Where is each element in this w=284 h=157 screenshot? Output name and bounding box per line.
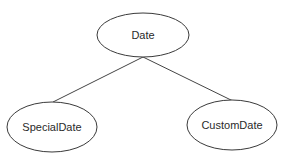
class-hierarchy-diagram: Date SpecialDate CustomDate [0, 0, 284, 157]
node-customdate: CustomDate [187, 100, 277, 150]
node-customdate-label: CustomDate [201, 119, 262, 131]
node-date: Date [97, 13, 189, 57]
edge-date-to-specialdate [53, 57, 143, 102]
edges [53, 57, 233, 102]
edge-date-to-customdate [143, 57, 233, 101]
node-specialdate: SpecialDate [7, 102, 97, 152]
node-specialdate-label: SpecialDate [22, 121, 81, 133]
node-date-label: Date [131, 29, 154, 41]
